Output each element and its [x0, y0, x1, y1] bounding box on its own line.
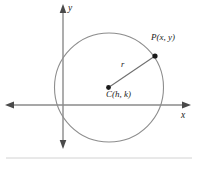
center-c-label: C(h, k) — [106, 90, 131, 99]
circle-diagram-graphic — [0, 0, 198, 170]
radius-segment — [109, 56, 156, 88]
x-axis-arrow-left-icon — [5, 102, 14, 109]
point-p-label: P(x, y) — [151, 33, 175, 42]
figure-canvas: y x P(x, y) C(h, k) r — [0, 0, 198, 170]
y-axis — [60, 4, 67, 149]
boundary-point-dot — [152, 53, 157, 58]
y-axis-arrow-down-icon — [60, 140, 67, 149]
x-axis-arrow-right-icon — [182, 102, 191, 109]
y-axis-arrow-up-icon — [60, 4, 67, 13]
y-axis-label: y — [68, 4, 72, 14]
x-axis — [5, 102, 191, 109]
radius-r-label: r — [121, 60, 124, 69]
x-axis-label: x — [181, 111, 185, 121]
